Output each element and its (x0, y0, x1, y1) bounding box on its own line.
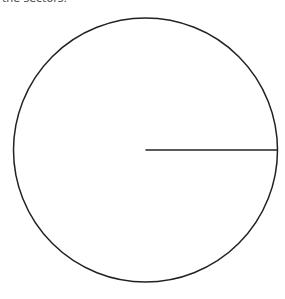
circle-diagram (0, 0, 285, 299)
